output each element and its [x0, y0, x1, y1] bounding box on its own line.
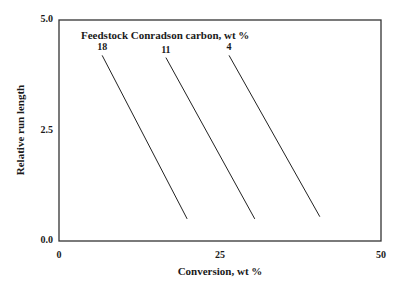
y-axis-label: Relative run length [14, 85, 26, 175]
series-label-4: 4 [227, 41, 232, 52]
x-axis-label: Conversion, wt % [178, 265, 263, 277]
chart: 025500.02.55.0 18114 Feedstock Conradson… [0, 0, 401, 291]
y-tick-label: 2.5 [41, 124, 54, 135]
series-line-18 [102, 55, 187, 219]
y-tick-label: 0.0 [41, 234, 54, 245]
x-tick-label: 0 [57, 249, 62, 260]
series-line-4 [229, 55, 320, 216]
x-tick-label: 25 [215, 249, 225, 260]
series-line-11 [166, 58, 255, 219]
series-label-18: 18 [97, 41, 107, 52]
legend-title: Feedstock Conradson carbon, wt % [81, 29, 249, 41]
x-tick-label: 50 [376, 249, 386, 260]
y-tick-label: 5.0 [41, 13, 54, 24]
plot-frame [59, 20, 381, 241]
series-label-11: 11 [161, 44, 170, 55]
